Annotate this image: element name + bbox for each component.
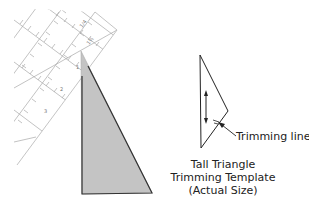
caption-line-2: Trimming Template (163, 171, 283, 184)
template-caption: Tall Triangle Trimming Template (Actual … (163, 158, 283, 197)
trimming-line-label: Trimming line (236, 130, 309, 143)
svg-text:1: 1 (76, 64, 79, 70)
svg-text:1/4: 1/4 (78, 19, 88, 29)
caption-line-3: (Actual Size) (163, 184, 283, 197)
trimming-template-triangle (200, 55, 236, 148)
caption-line-1: Tall Triangle (163, 158, 283, 171)
tall-triangle-patch (81, 51, 152, 194)
svg-text:2: 2 (60, 86, 63, 92)
svg-text:3: 3 (44, 108, 47, 114)
